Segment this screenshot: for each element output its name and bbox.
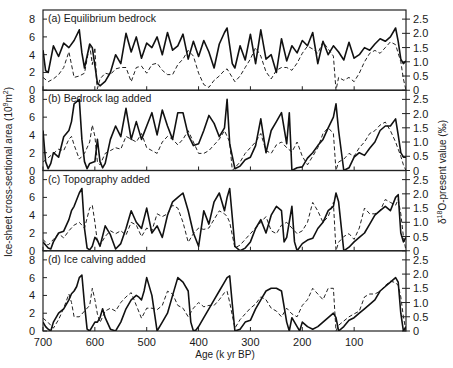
chart-panels: 0246800.51.01.52.02.5(a) Equilibrium bed… [29,10,428,337]
right-tick-label: 0 [413,325,419,337]
left-tick-label: 8 [29,93,35,105]
x-tick-label: 600 [86,336,104,348]
right-tick-label: 0.5 [413,70,428,82]
panel-b: 0246800.51.01.52.02.5(b) Bedrock lag add… [29,90,428,176]
panel-title: (c) Topography added [48,173,150,185]
d18o-dashed-line [43,281,406,331]
right-tick-label: 2.5 [413,93,428,105]
x-axis-title: Age (k yr BP) [195,349,254,360]
panel-title: (b) Bedrock lag added [48,92,151,104]
right-tick-label: 2.0 [413,188,428,200]
x-tick-label: 200 [293,336,311,348]
left-tick-label: 2 [29,227,35,239]
panel-d: 0246800.51.01.52.02.5(d) Ice calving add… [29,251,428,337]
right-tick-label: 2.5 [413,174,428,186]
right-y-axis-title: δ18O-present value (‰) [436,120,448,224]
right-tick-label: 2.0 [413,27,428,39]
x-tick-label: 300 [241,336,259,348]
right-tick-label: 1.0 [413,136,428,148]
left-tick-label: 6 [29,272,35,284]
left-tick-label: 8 [29,13,35,25]
left-tick-label: 4 [29,129,35,141]
panel-title: (a) Equilibrium bedrock [48,12,157,24]
ice-sheet-chart: 0246800.51.01.52.02.5(a) Equilibrium bed… [0,0,453,368]
right-tick-label: 1.5 [413,42,428,54]
right-tick-label: 1.5 [413,202,428,214]
right-tick-label: 1.5 [413,282,428,294]
right-tick-label: 1.0 [413,56,428,68]
right-tick-label: 0.5 [413,150,428,162]
left-tick-label: 8 [29,174,35,186]
model-solid-line [43,28,406,86]
left-tick-label: 4 [29,209,35,221]
left-tick-label: 4 [29,289,35,301]
right-tick-label: 0.5 [413,231,428,243]
left-tick-label: 8 [29,254,35,266]
left-tick-label: 6 [29,191,35,203]
left-tick-label: 6 [29,111,35,123]
x-axis: 700600500400300200100 [34,336,364,348]
left-tick-label: 2 [29,147,35,159]
left-tick-label: 2 [29,66,35,78]
x-tick-label: 400 [189,336,207,348]
x-tick-label: 700 [34,336,52,348]
right-tick-label: 2.0 [413,268,428,280]
x-tick-label: 100 [345,336,363,348]
right-tick-label: 2.5 [413,254,428,266]
x-tick-label: 500 [138,336,156,348]
left-tick-label: 4 [29,49,35,61]
right-tick-label: 2.0 [413,108,428,120]
right-tick-label: 2.5 [413,13,428,25]
right-tick-label: 0.5 [413,311,428,323]
right-tick-label: 1.0 [413,216,428,228]
panel-c: 0246800.51.01.52.02.5(c) Topography adde… [29,171,428,257]
left-y-axis-title: Ice-sheet cross-sectional area (109m2) [2,87,14,257]
panel-title: (d) Ice calving added [48,253,146,265]
right-tick-label: 1.0 [413,297,428,309]
left-tick-label: 2 [29,307,35,319]
left-tick-label: 6 [29,31,35,43]
panel-a: 0246800.51.01.52.02.5(a) Equilibrium bed… [29,10,428,96]
right-tick-label: 1.5 [413,122,428,134]
model-solid-line [43,275,406,331]
model-solid-line [43,189,406,251]
